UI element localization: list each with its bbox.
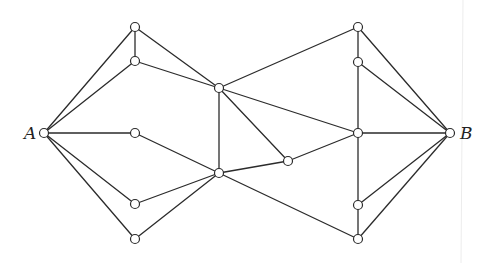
node-B xyxy=(446,129,455,138)
node-L4 xyxy=(131,200,140,209)
node-A xyxy=(40,129,49,138)
edge-R4-B xyxy=(358,133,450,205)
node-R1 xyxy=(354,23,363,32)
node-C1 xyxy=(215,84,224,93)
edge-L4-C2 xyxy=(135,173,219,204)
edge-A-L4 xyxy=(44,133,135,204)
edges-group xyxy=(44,27,450,239)
node-P xyxy=(284,157,293,166)
node-L3 xyxy=(131,129,140,138)
node-L2 xyxy=(131,57,140,66)
graph-diagram: AB xyxy=(0,0,485,263)
edge-A-L1 xyxy=(44,27,135,133)
node-label-B: B xyxy=(459,123,473,143)
edge-R1-B xyxy=(358,27,450,133)
node-R3 xyxy=(354,129,363,138)
node-R2 xyxy=(354,58,363,67)
node-L5 xyxy=(131,235,140,244)
node-L1 xyxy=(131,23,140,32)
node-label-A: A xyxy=(22,123,36,143)
edge-C1-R1 xyxy=(219,27,358,88)
edge-C2-R5 xyxy=(219,173,358,239)
node-C2 xyxy=(215,169,224,178)
edge-L3-C2 xyxy=(135,133,219,173)
node-R5 xyxy=(354,235,363,244)
node-R4 xyxy=(354,201,363,210)
edge-A-L2 xyxy=(44,61,135,133)
edge-L2-C1 xyxy=(135,61,219,88)
edge-C2-P xyxy=(219,161,288,173)
edge-L1-C1 xyxy=(135,27,219,88)
edge-A-L5 xyxy=(44,133,135,239)
edge-L5-C2 xyxy=(135,173,219,239)
edge-P-R3 xyxy=(288,133,358,161)
edge-R5-B xyxy=(358,133,450,239)
edge-R2-B xyxy=(358,62,450,133)
